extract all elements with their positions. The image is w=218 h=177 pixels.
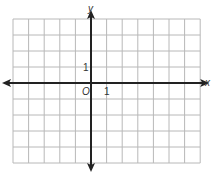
origin-label: O bbox=[82, 87, 90, 97]
x-unit-label: 1 bbox=[104, 87, 110, 97]
y-axis-label: y bbox=[88, 4, 93, 14]
x-axis-label: x bbox=[205, 78, 210, 88]
y-unit-label: 1 bbox=[83, 63, 89, 73]
